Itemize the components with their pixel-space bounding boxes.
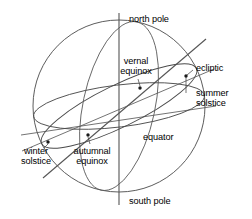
winter-solstice-label-line2: solstice — [8, 156, 64, 166]
autumnal-equinox-point — [86, 133, 89, 136]
equator-label: equator — [143, 132, 173, 142]
vernal-equinox-label-line1: vernal — [108, 56, 164, 66]
autumnal-equinox-label-line1: autumnal — [63, 146, 121, 156]
ecliptic-leader — [187, 70, 193, 75]
equinox-line — [22, 69, 214, 151]
summer-solstice-label-line1: summer — [196, 88, 229, 98]
vernal-equinox-leader — [138, 79, 140, 86]
ecliptic-label: ecliptic — [196, 63, 223, 73]
vernal-equinox-point — [138, 86, 141, 89]
south-pole-label: south pole — [129, 196, 170, 206]
autumnal-equinox-label-line2: equinox — [63, 156, 121, 166]
north-pole-label: north pole — [129, 14, 169, 24]
summer-solstice-label-line2: solstice — [196, 98, 226, 108]
winter-solstice-label-line1: winter — [8, 146, 64, 156]
vernal-equinox-label-line2: equinox — [108, 66, 164, 76]
winter-solstice-point — [46, 140, 49, 143]
celestial-sphere-drawing — [0, 0, 252, 219]
celestial-sphere-figure: north pole south pole vernal equinox ecl… — [0, 0, 252, 219]
